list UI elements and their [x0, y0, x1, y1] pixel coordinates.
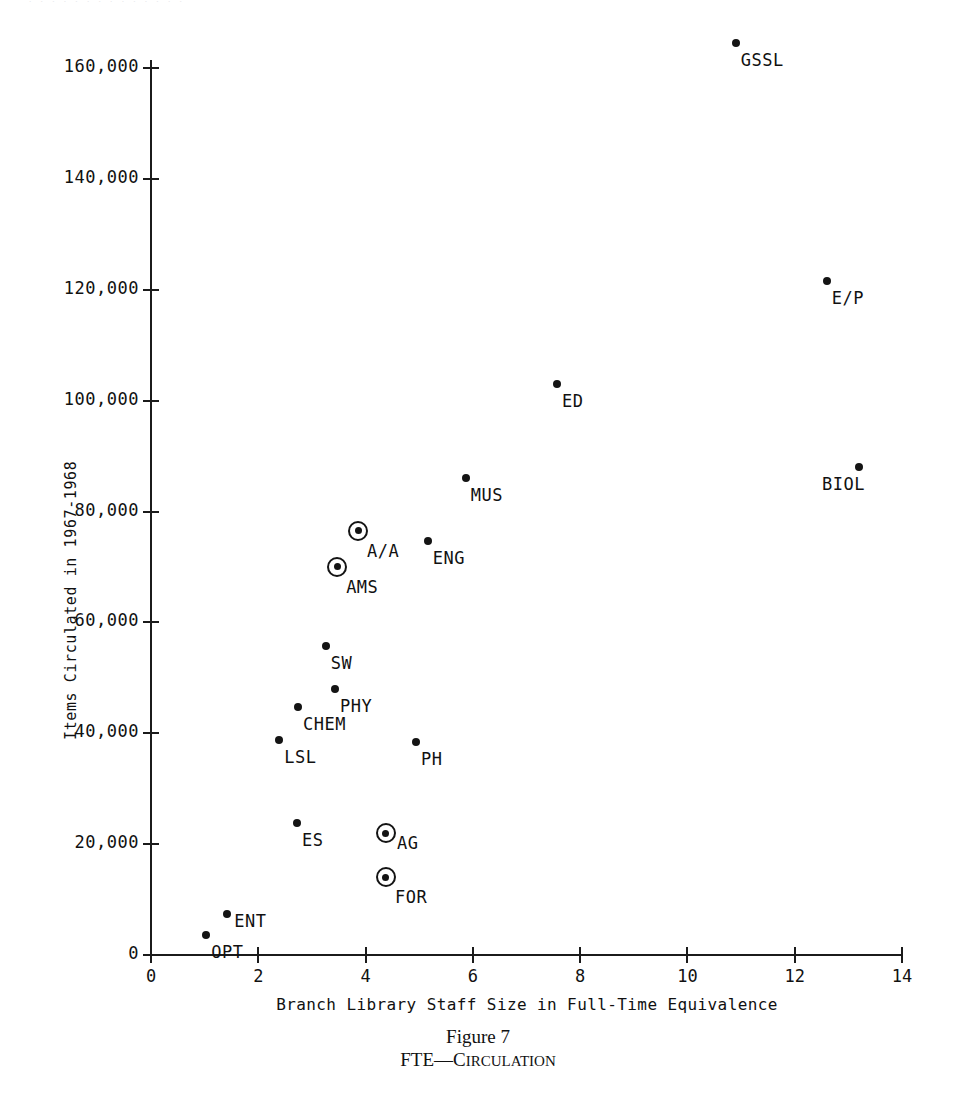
data-point-label: ENT — [234, 912, 266, 930]
data-point-label: GSSL — [741, 51, 784, 69]
y-axis-tick: 20,000 — [143, 843, 159, 845]
data-point-label: BIOL — [822, 475, 865, 493]
dot-marker-icon — [223, 910, 231, 918]
dot-marker-icon — [553, 380, 561, 388]
data-point-label: A/A — [367, 542, 399, 560]
y-axis-tick: 160,000 — [143, 67, 159, 69]
data-point-label: PH — [421, 750, 442, 768]
y-axis-title: Items Circulated in 1967-1968 — [62, 461, 80, 740]
y-axis-tick: 80,000 — [143, 511, 159, 513]
x-axis-tick: 10 — [686, 947, 688, 963]
x-axis-tick: 4 — [365, 947, 367, 963]
dot-marker-icon — [275, 736, 283, 744]
data-point-label: FOR — [395, 888, 427, 906]
y-axis-tick-label: 160,000 — [64, 57, 139, 75]
data-point-label: LSL — [284, 748, 316, 766]
x-axis-line — [151, 954, 903, 956]
dot-marker-icon — [732, 39, 740, 47]
data-point-label: SW — [331, 654, 352, 672]
y-axis-tick: 120,000 — [143, 289, 159, 291]
data-point-label: AG — [397, 834, 418, 852]
x-axis-tick-label: 10 — [677, 967, 697, 985]
circled-marker-icon — [376, 867, 396, 887]
y-axis-tick: 60,000 — [143, 621, 159, 623]
data-point-label: AMS — [346, 578, 378, 596]
x-axis-tick-label: 2 — [253, 967, 263, 985]
x-axis-tick-label: 12 — [784, 967, 804, 985]
data-point-label: ES — [302, 831, 323, 849]
x-axis-tick-label: 14 — [892, 967, 912, 985]
data-point-label: ENG — [433, 549, 465, 567]
figure-number: Figure 7 — [0, 1026, 956, 1048]
dot-marker-icon — [331, 685, 339, 693]
y-axis-tick: 140,000 — [143, 178, 159, 180]
data-point-label: ED — [562, 392, 583, 410]
figure-title-rest: CIRCULATION — [453, 1052, 556, 1069]
figure-scatter-plot: 020,00040,00060,00080,000100,000120,0001… — [0, 0, 956, 1098]
dot-marker-icon — [424, 537, 432, 545]
dot-marker-icon — [322, 642, 330, 650]
y-axis-tick-label: 0 — [128, 944, 139, 962]
x-axis-tick: 12 — [794, 947, 796, 963]
plot-area: 020,00040,00060,00080,000100,000120,0001… — [0, 0, 956, 1010]
data-point-label: CHEM — [303, 715, 346, 733]
circled-marker-icon — [348, 521, 368, 541]
y-axis-tick-label: 120,000 — [64, 279, 139, 297]
x-axis-tick-label: 4 — [360, 967, 370, 985]
y-axis-tick-label: 20,000 — [75, 833, 139, 851]
dot-marker-icon — [294, 703, 302, 711]
figure-title-lead: FTE — [400, 1049, 434, 1070]
data-point-label: PHY — [340, 697, 372, 715]
circled-marker-icon — [327, 557, 347, 577]
figure-title: FTE—CIRCULATION — [0, 1048, 956, 1073]
y-axis-tick-label: 140,000 — [64, 168, 139, 186]
dot-marker-icon — [823, 277, 831, 285]
figure-caption: Figure 7 FTE—CIRCULATION — [0, 1026, 956, 1073]
x-axis-tick: 0 — [150, 947, 152, 963]
dot-marker-icon — [462, 474, 470, 482]
y-axis-tick-label: 40,000 — [75, 722, 139, 740]
y-axis-tick-label: 60,000 — [75, 611, 139, 629]
y-axis-line — [150, 60, 152, 956]
figure-title-dash: — — [434, 1049, 453, 1070]
y-axis-tick-label: 100,000 — [64, 390, 139, 408]
data-point-label: MUS — [471, 486, 503, 504]
y-axis-tick-label: 80,000 — [75, 501, 139, 519]
data-point-label: OPT — [211, 943, 243, 961]
x-axis-tick-label: 6 — [468, 967, 478, 985]
x-axis-title: Branch Library Staff Size in Full-Time E… — [151, 995, 903, 1014]
x-axis-tick-label: 8 — [575, 967, 585, 985]
y-axis-tick: 40,000 — [143, 732, 159, 734]
x-axis-tick: 8 — [579, 947, 581, 963]
data-point-label: E/P — [832, 289, 864, 307]
y-axis-tick: 100,000 — [143, 400, 159, 402]
x-axis-tick-label: 0 — [146, 967, 156, 985]
dot-marker-icon — [202, 931, 210, 939]
x-axis-tick: 2 — [257, 947, 259, 963]
x-axis-tick: 14 — [901, 947, 903, 963]
dot-marker-icon — [293, 819, 301, 827]
circled-marker-icon — [376, 823, 396, 843]
dot-marker-icon — [412, 738, 420, 746]
dot-marker-icon — [855, 463, 863, 471]
x-axis-tick: 6 — [472, 947, 474, 963]
